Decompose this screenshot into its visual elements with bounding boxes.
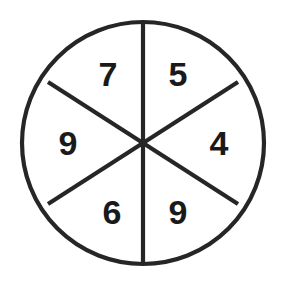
sector-label-top-right: 5 — [169, 55, 188, 93]
spinner-wheel: 5 4 9 6 9 7 — [0, 0, 285, 288]
sector-label-top-left: 7 — [99, 55, 118, 93]
sector-label-bottom-left: 6 — [103, 193, 122, 231]
sector-label-left: 9 — [59, 124, 78, 162]
sector-label-bottom-right: 9 — [169, 193, 188, 231]
spinner-figure: 5 4 9 6 9 7 — [0, 0, 285, 288]
sector-label-right: 4 — [210, 124, 229, 162]
